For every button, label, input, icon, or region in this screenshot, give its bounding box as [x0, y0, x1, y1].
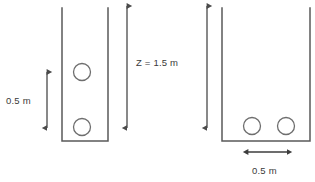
schematic-svg: 0.5 m Z = 1.5 m 0.5 m: [0, 0, 315, 182]
bottom-spacing-label: 0.5 m: [252, 165, 277, 176]
right-container-circle-right: [278, 118, 295, 135]
height-dimension-label: Z = 1.5 m: [136, 57, 178, 68]
left-container-circle-upper: [74, 64, 91, 81]
left-container-circle-lower: [74, 119, 91, 136]
right-container-circle-left: [244, 118, 261, 135]
left-container-group: [62, 8, 108, 141]
diagram-canvas: 0.5 m Z = 1.5 m 0.5 m: [0, 0, 315, 182]
left-spacing-label: 0.5 m: [6, 95, 31, 106]
right-container-walls: [222, 8, 310, 141]
right-container-group: [222, 8, 310, 141]
